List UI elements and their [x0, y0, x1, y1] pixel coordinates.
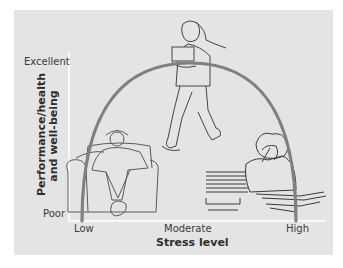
x-tick-high: High: [286, 223, 309, 235]
x-tick-moderate: Moderate: [164, 223, 212, 235]
y-tick-excellent: Excellent: [24, 56, 70, 68]
performance-curve: [82, 63, 296, 221]
walking-person-illustration: [162, 21, 226, 151]
x-tick-low: Low: [74, 223, 94, 235]
armchair-person-illustration: [67, 131, 159, 217]
y-tick-poor: Poor: [43, 208, 65, 220]
y-axis-title: Performance/health and well-being: [36, 76, 60, 196]
y-axis-title-line2: and well-being: [48, 76, 60, 196]
x-axis-title: Stress level: [156, 237, 229, 249]
desk-person-illustration: [206, 133, 326, 212]
